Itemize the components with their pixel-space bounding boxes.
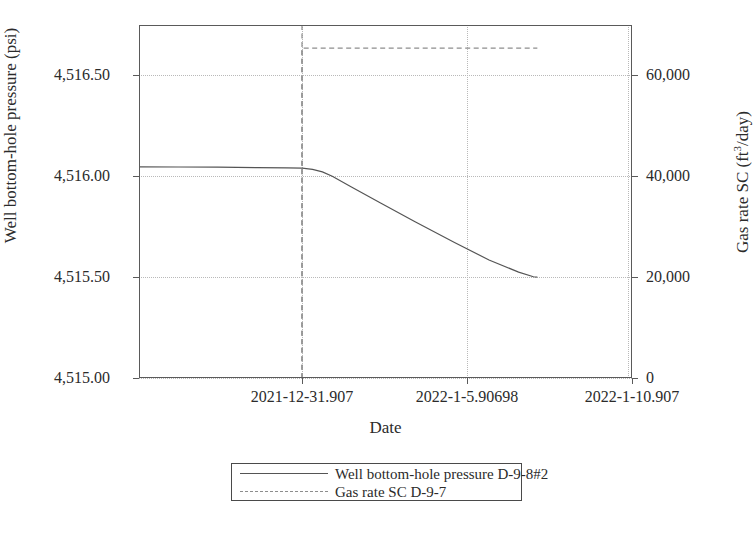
y-axis-right-tick [632,75,638,76]
y-axis-right-title-post: /day) [733,111,752,146]
y-axis-right-title-superscript: 3 [731,146,743,152]
y-axis-left-tick-label: 4,515.00 [0,370,110,386]
y-axis-right-tick [632,176,638,177]
series-line-1 [302,48,537,378]
series-layer [139,25,632,378]
y-axis-right-tick-label: 0 [646,370,756,386]
x-axis-tick [632,378,633,384]
y-axis-left-tick-label: 4,515.50 [0,269,110,285]
x-axis-title: Date [139,418,632,438]
x-axis-tick-label: 2022-1-10.907 [585,388,680,406]
legend-swatch-dashed [240,486,328,498]
x-axis-tick-label: 2022-1-5.90698 [416,388,519,406]
y-axis-left-tick-label: 4,516.00 [0,168,110,184]
legend-label: Gas rate SC D-9-7 [335,483,446,501]
y-axis-right-tick-label: 20,000 [646,269,756,285]
y-axis-right-tick-label: 40,000 [646,168,756,184]
legend-item[interactable]: Well bottom-hole pressure D-9-8#2 [232,465,521,483]
y-axis-right-title: Gas rate SC (ft3/day) [724,0,750,392]
chart-figure: Well bottom-hole pressure (psi) Gas rate… [0,0,756,539]
axis-left-spine [139,25,140,378]
axis-top-spine [139,25,632,26]
legend-label: Well bottom-hole pressure D-9-8#2 [335,465,548,483]
plot-area [139,25,632,378]
x-axis-tick-label: 2021-12-31.907 [251,388,354,406]
y-axis-left-tick [133,378,139,379]
y-axis-left-tick-label: 4,516.50 [0,67,110,83]
axis-right-spine [631,25,632,378]
y-axis-left-title: Well bottom-hole pressure (psi) [0,0,24,405]
axis-bottom-spine [139,377,632,378]
x-axis-tick [302,378,303,384]
y-axis-right-tick-label: 60,000 [646,67,756,83]
chart-legend: Well bottom-hole pressure D-9-8#2Gas rat… [231,463,522,501]
series-line-0 [139,167,537,277]
y-axis-right-tick [632,277,638,278]
x-axis-tick [467,378,468,384]
legend-swatch-solid [240,468,328,480]
legend-item[interactable]: Gas rate SC D-9-7 [232,483,521,501]
gridline-horizontal [139,378,632,379]
y-axis-right-title-pre: Gas rate SC (ft [733,151,752,253]
